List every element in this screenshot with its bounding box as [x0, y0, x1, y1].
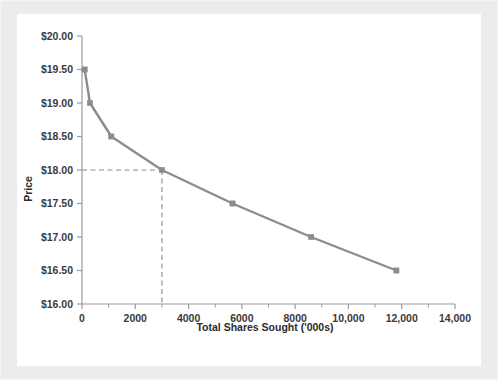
- y-tick-label: $16.50: [41, 264, 73, 276]
- y-axis-title: Price: [22, 176, 34, 202]
- x-axis-title: Total Shares Sought ('000s): [196, 321, 333, 333]
- y-tick-label: $18.00: [41, 164, 73, 176]
- chart-card: $16.00$16.50$17.00$17.50$18.00$18.50$19.…: [17, 14, 481, 366]
- data-point-marker: [230, 201, 235, 206]
- guideline-group: [82, 170, 162, 304]
- y-tick-label: $20.00: [41, 30, 73, 42]
- figure-frame: $16.00$16.50$17.00$17.50$18.00$18.50$19.…: [0, 0, 498, 380]
- y-tick-label: $19.00: [41, 97, 73, 109]
- chart-plot-area: $16.00$16.50$17.00$17.50$18.00$18.50$19.…: [17, 14, 481, 366]
- y-tick-label: $19.50: [41, 63, 73, 75]
- x-tick-label: 2000: [124, 312, 148, 324]
- price-vs-shares-chart: $16.00$16.50$17.00$17.50$18.00$18.50$19.…: [17, 14, 481, 366]
- x-tick-label: 10,000: [332, 312, 364, 324]
- y-tick-label: $18.50: [41, 130, 73, 142]
- demand-curve-line: [85, 70, 397, 271]
- y-tick-label: $16.00: [41, 298, 73, 310]
- y-tick-label: $17.00: [41, 231, 73, 243]
- data-point-marker: [159, 167, 164, 172]
- data-point-marker: [109, 134, 114, 139]
- x-tick-label: 0: [79, 312, 85, 324]
- data-point-marker: [394, 268, 399, 273]
- data-series-group: [82, 67, 399, 273]
- x-tick-label: 12,000: [386, 312, 418, 324]
- data-point-marker: [87, 100, 92, 105]
- y-tick-label: $17.50: [41, 197, 73, 209]
- y-axis-tick-labels: $16.00$16.50$17.00$17.50$18.00$18.50$19.…: [41, 30, 73, 310]
- data-point-marker: [82, 67, 87, 72]
- data-point-marker: [309, 234, 314, 239]
- x-tick-label: 14,000: [439, 312, 471, 324]
